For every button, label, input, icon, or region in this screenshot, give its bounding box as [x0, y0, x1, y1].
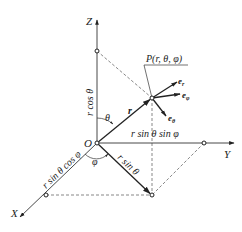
y-projection-length-label: r sin θ sin φ: [131, 128, 179, 139]
xy-projection-point: [150, 193, 154, 197]
e-phi-label: eφ: [182, 90, 190, 101]
point-p: [150, 96, 154, 100]
x-projection-length-label: r sin θ cos φ: [40, 148, 83, 191]
e-theta-label: eθ: [168, 113, 176, 124]
x-projection-point: [44, 193, 48, 197]
x-axis-label: X: [10, 207, 19, 219]
p-label-leader: [144, 65, 152, 98]
spherical-coordinates-diagram: Z Y X O P(r, θ, φ) r er eφ eθ θ φ r cos …: [0, 0, 242, 232]
z-axis-label: Z: [86, 15, 93, 27]
point-p-label: P(r, θ, φ): [145, 53, 183, 65]
origin-label: O: [84, 137, 92, 149]
position-vector-label: r: [128, 105, 132, 116]
dash-y-to-projection: [152, 143, 204, 195]
e-r-label: er: [178, 76, 185, 87]
unit-vector-e-theta: [152, 98, 166, 116]
y-axis-label: Y: [224, 148, 232, 160]
theta-label: θ: [105, 112, 110, 123]
origin-point: [95, 141, 99, 145]
y-projection-point: [202, 141, 206, 145]
z-projection-length-label: r cos θ: [84, 89, 95, 116]
dash-z-to-p: [97, 51, 152, 98]
z-projection-point: [95, 49, 99, 53]
construction-lines: [46, 51, 204, 195]
phi-label: φ: [92, 156, 98, 167]
